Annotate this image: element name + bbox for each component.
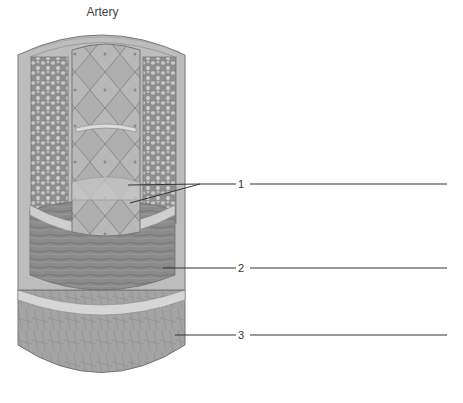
cellular-layer-left (31, 57, 68, 223)
label-2-number: 2 (236, 262, 246, 274)
tunica-intima (72, 44, 140, 236)
label-1-number: 1 (236, 178, 246, 190)
artery-illustration (0, 0, 463, 403)
label-3-number: 3 (236, 329, 246, 341)
